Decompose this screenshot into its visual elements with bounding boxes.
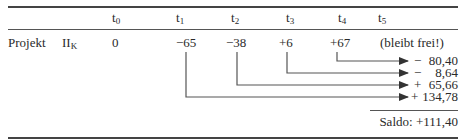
compounded-value-t1: 134,78 — [422, 90, 458, 104]
compounded-sign-t1: + — [411, 90, 418, 104]
saldo: Saldo: +111,40 — [379, 115, 458, 129]
